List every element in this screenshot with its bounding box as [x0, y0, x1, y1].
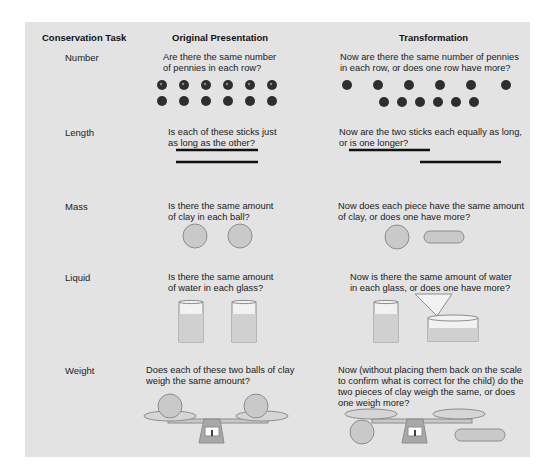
balance-scale-illustration [0, 0, 547, 473]
